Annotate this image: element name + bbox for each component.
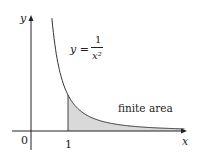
origin-label: 0	[21, 135, 28, 146]
x-axis-label: x	[182, 136, 188, 147]
finite-area-label: finite area	[118, 103, 173, 114]
plot-canvas	[0, 0, 198, 161]
y-axis-arrow-icon	[29, 15, 34, 21]
fraction-bar	[91, 47, 103, 48]
tick-one-label: 1	[65, 139, 72, 150]
equation-numerator: 1	[95, 34, 101, 45]
equation-lhs: y =	[70, 43, 89, 56]
equation-denominator: x²	[92, 50, 102, 61]
y-axis-label: y	[20, 13, 26, 24]
